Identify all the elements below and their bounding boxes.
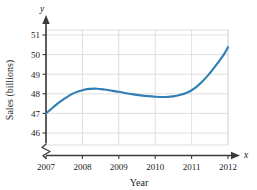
y-tick-label: 50 (31, 50, 41, 60)
x-axis-title: Year (130, 177, 149, 188)
sales-curve (46, 47, 228, 113)
x-axis-symbol: x (243, 150, 249, 160)
x-tick-label: 2011 (183, 162, 201, 172)
x-tick-label: 2007 (37, 162, 56, 172)
x-tick-label: 2008 (73, 162, 92, 172)
plot-frame (46, 30, 228, 145)
y-axis-tick-labels: 464748495051 (31, 30, 41, 138)
x-axis (46, 152, 240, 159)
chart-figure: 464748495051 200720082009201020112012 x … (0, 0, 257, 190)
y-tick-label: 49 (31, 70, 41, 80)
x-tick-label: 2009 (110, 162, 129, 172)
x-tick-label: 2010 (146, 162, 165, 172)
y-tick-label: 51 (31, 30, 40, 40)
y-tick-label: 48 (31, 89, 41, 99)
y-axis-title: Sales (billions) (4, 60, 16, 120)
vertical-gridlines (46, 30, 228, 145)
x-tick-label: 2012 (219, 162, 237, 172)
y-tick-label: 46 (31, 128, 41, 138)
sales-line-chart: 464748495051 200720082009201020112012 x … (0, 0, 257, 190)
y-axis (42, 15, 49, 143)
y-tick-label: 47 (31, 109, 41, 119)
y-axis-symbol: y (39, 4, 45, 14)
x-axis-tick-labels: 200720082009201020112012 (37, 162, 237, 172)
